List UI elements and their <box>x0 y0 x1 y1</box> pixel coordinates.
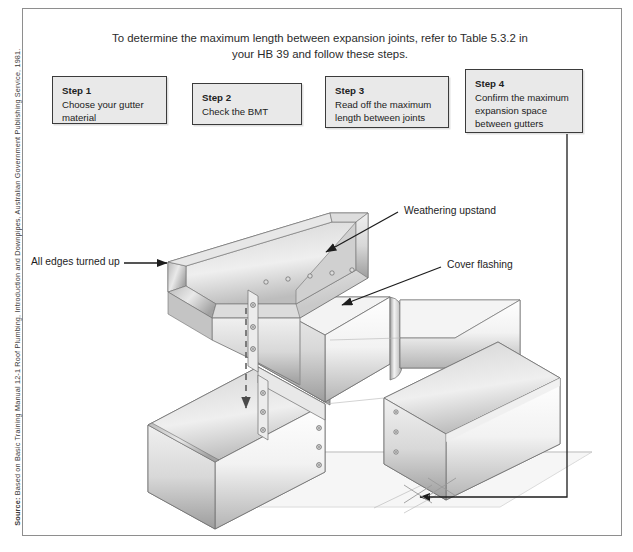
step-box-2: Step 2 Check the BMT <box>192 83 302 125</box>
step-box-1: Step 1 Choose your gutter material <box>52 76 167 124</box>
step-1-body: Choose your gutter material <box>62 98 158 124</box>
source-credit-text: Based on Basic Training Manual 12-1 Roof… <box>13 49 22 498</box>
figure-page: Source: Based on Basic Training Manual 1… <box>0 0 633 552</box>
step-3-title: Step 3 <box>335 84 440 97</box>
source-credit: Source: Based on Basic Training Manual 1… <box>14 6 21 526</box>
source-credit-label: Source: <box>13 497 22 525</box>
step-4-title: Step 4 <box>475 77 574 90</box>
step-1-title: Step 1 <box>62 84 158 97</box>
label-cover-flashing: Cover flashing <box>447 259 513 270</box>
intro-instruction: To determine the maximum length between … <box>110 30 530 62</box>
step-2-title: Step 2 <box>202 91 293 104</box>
step-box-3: Step 3 Read off the maximum length betwe… <box>325 76 449 128</box>
label-weathering-upstand: Weathering upstand <box>404 205 496 216</box>
step-3-body: Read off the maximum length between join… <box>335 98 440 124</box>
step-2-body: Check the BMT <box>202 105 293 118</box>
step-4-body: Confirm the maximum expansion space betw… <box>475 91 574 130</box>
step-box-4: Step 4 Confirm the maximum expansion spa… <box>465 69 583 133</box>
label-all-edges-turned-up: All edges turned up <box>31 256 120 267</box>
